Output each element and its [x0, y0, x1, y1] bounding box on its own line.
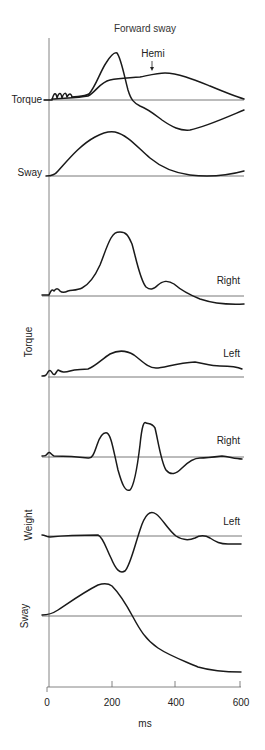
weight-group-label: Weight	[23, 509, 34, 540]
hemi-arrowhead-icon	[150, 67, 154, 71]
x-tick-label-400: 400	[168, 697, 185, 708]
torque-left-label: Left	[223, 348, 240, 359]
x-tick-label-600: 600	[233, 697, 250, 708]
weight-left-label: Left	[223, 516, 240, 527]
torque-top-label: Torque	[11, 94, 42, 105]
sway-bottom-trace	[42, 584, 241, 672]
torque-left-trace	[42, 351, 242, 376]
x-axis-label: ms	[138, 718, 151, 729]
x-tick-label-0: 0	[44, 697, 50, 708]
torque-hemi-trace	[52, 73, 244, 99]
weight-right-label: Right	[217, 435, 241, 446]
weight-left-trace	[42, 513, 241, 572]
torque-group-label: Torque	[23, 326, 34, 357]
chart-title: Forward sway	[114, 23, 176, 34]
sway-top-label: Sway	[18, 167, 42, 178]
forward-sway-chart: Forward sway 0 200 400 600 ms Torque Hem…	[0, 0, 265, 750]
x-tick-label-200: 200	[104, 697, 121, 708]
sway-top-trace	[46, 132, 244, 177]
torque-right-trace	[42, 232, 244, 304]
weight-right-trace	[42, 423, 242, 491]
torque-right-label: Right	[217, 275, 241, 286]
sway-bottom-label: Sway	[19, 604, 30, 628]
hemi-annotation: Hemi	[141, 48, 164, 59]
torque-normal-trace	[44, 53, 244, 130]
